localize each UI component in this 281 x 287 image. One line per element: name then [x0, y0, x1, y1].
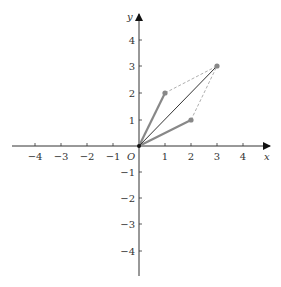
svg-text:−1: −1	[106, 151, 121, 162]
svg-text:−2: −2	[120, 193, 135, 204]
point-2-1	[188, 117, 193, 122]
svg-text:1: 1	[129, 115, 135, 126]
point-3-3	[214, 63, 219, 68]
coordinate-diagram: −4 −3 −2 −1 1 2 3 4 4 3 2 1 −1 −2 −3 −4 …	[0, 0, 281, 287]
x-tick-labels: −4 −3 −2 −1 1 2 3 4	[28, 151, 247, 162]
point-1-2	[162, 90, 167, 95]
svg-text:−3: −3	[120, 219, 135, 230]
svg-text:2: 2	[129, 88, 135, 99]
svg-text:2: 2	[188, 151, 194, 162]
svg-text:−3: −3	[54, 151, 69, 162]
svg-text:−4: −4	[120, 246, 135, 257]
svg-text:4: 4	[129, 35, 135, 46]
origin-point	[137, 144, 141, 148]
vector-a	[139, 93, 165, 146]
svg-text:1: 1	[162, 151, 168, 162]
vector-b	[139, 120, 191, 146]
origin-label: O	[127, 151, 135, 162]
svg-text:−4: −4	[28, 151, 43, 162]
x-axis-label: x	[264, 151, 270, 162]
svg-text:4: 4	[240, 151, 246, 162]
dashed-line-b-to-sum	[191, 66, 217, 120]
vector-sum	[139, 66, 217, 146]
svg-text:−1: −1	[120, 167, 135, 178]
svg-text:3: 3	[214, 151, 220, 162]
y-axis-label: y	[126, 11, 133, 22]
svg-text:3: 3	[129, 61, 135, 72]
dashed-line-a-to-sum	[165, 66, 217, 93]
svg-text:−2: −2	[80, 151, 95, 162]
